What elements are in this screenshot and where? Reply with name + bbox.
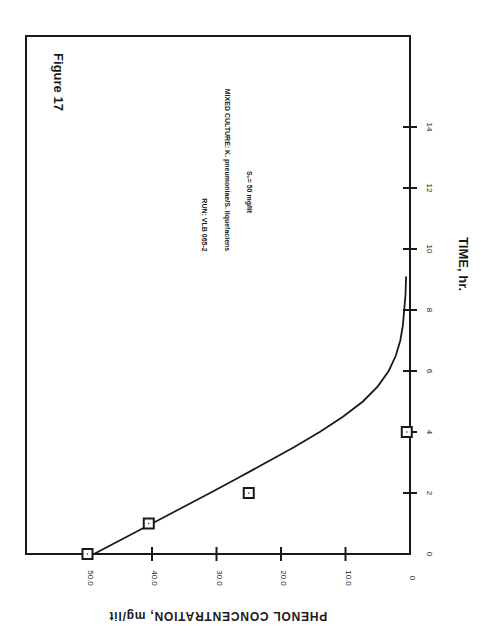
concentration-tick-label: 0 bbox=[408, 576, 417, 581]
time-tick-label: 10 bbox=[425, 245, 434, 254]
data-point-dot bbox=[87, 553, 88, 554]
axis-tick-labels: 02468101214010.020.030.040.050.0 bbox=[86, 123, 435, 587]
data-point-dot bbox=[406, 431, 407, 432]
time-tick-label: 0 bbox=[425, 552, 434, 557]
time-tick-label: 14 bbox=[425, 123, 434, 132]
annotation-initial-concentration: S₀= 50 mg/lit bbox=[245, 171, 253, 214]
concentration-tick-label: 30.0 bbox=[215, 570, 224, 586]
concentration-tick-label: 50.0 bbox=[86, 570, 95, 586]
plot-frame bbox=[26, 36, 410, 554]
time-tick-label: 6 bbox=[425, 369, 434, 374]
annotation-culture: MIXED CULTURE: K. pneumoniae/S. liquefac… bbox=[223, 89, 231, 252]
axis-ticks bbox=[152, 127, 417, 561]
time-tick-label: 4 bbox=[425, 430, 434, 435]
data-markers bbox=[83, 427, 412, 559]
concentration-tick-label: 20.0 bbox=[279, 570, 288, 586]
concentration-tick-label: 10.0 bbox=[344, 570, 353, 586]
time-tick-label: 8 bbox=[425, 308, 434, 313]
time-tick-label: 2 bbox=[425, 491, 434, 496]
x-axis-title: TIME, hr. bbox=[456, 237, 471, 291]
figure-label: Figure 17 bbox=[51, 53, 66, 111]
phenol-concentration-chart: 02468101214010.020.030.040.050.0 Figure … bbox=[0, 0, 481, 631]
y-axis-title: PHENOL CONCENTRATION, mg/lit bbox=[109, 609, 328, 623]
concentration-tick-label: 40.0 bbox=[150, 570, 159, 586]
fit-curve bbox=[94, 276, 406, 554]
data-point-dot bbox=[148, 523, 149, 524]
data-point-dot bbox=[248, 492, 249, 493]
annotation-run: RUN: VLB 065-2 bbox=[201, 198, 208, 251]
time-tick-label: 12 bbox=[425, 184, 434, 193]
